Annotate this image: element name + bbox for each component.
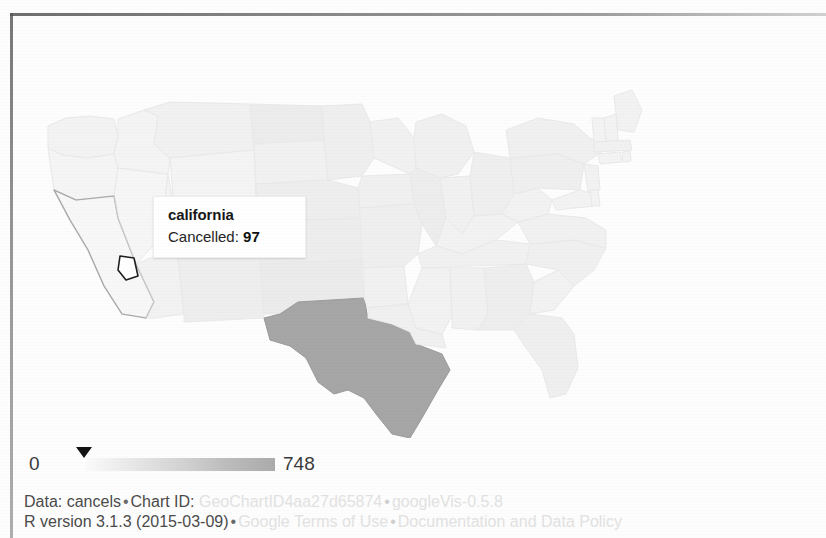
state-delaware[interactable] (590, 190, 600, 206)
legend-value-marker (76, 447, 92, 458)
footer-line-2: R version 3.1.3 (2015-03-09)•Google Term… (24, 512, 824, 532)
legend-min-label: 0 (29, 454, 40, 474)
state-missouri[interactable] (360, 204, 422, 268)
footer-library-link[interactable]: googleVis-0.5.8 (392, 493, 503, 510)
footer-separator-4: • (388, 513, 398, 530)
footer-line-1: Data: cancels•Chart ID: GeoChartID4aa27d… (24, 492, 824, 512)
footer-documentation-link[interactable]: Documentation and Data Policy (398, 513, 622, 530)
footer-data-label: Data: cancels (24, 493, 121, 510)
legend-gradient-bar[interactable] (85, 458, 275, 471)
us-states-map[interactable] (18, 18, 818, 438)
state-wisconsin[interactable] (370, 118, 416, 174)
state-rhode-island[interactable] (622, 151, 631, 162)
tooltip-region-name: california (168, 206, 293, 224)
state-alabama[interactable] (450, 268, 488, 330)
footer-separator-1: • (121, 493, 131, 510)
chart-footer: Data: cancels•Chart ID: GeoChartID4aa27d… (24, 492, 824, 532)
footer-chart-id-value: GeoChartID4aa27d65874 (199, 493, 382, 510)
page-edge-top (10, 13, 826, 16)
footer-r-version: R version 3.1.3 (2015-03-09) (24, 513, 229, 530)
legend-max-label: 748 (283, 454, 315, 474)
geochart-page: california Cancelled: 97 0 748 Data: can… (0, 0, 826, 538)
state-massachusetts[interactable] (594, 140, 632, 152)
state-new-mexico[interactable] (178, 254, 264, 322)
tooltip-metric-label: Cancelled: (168, 228, 239, 245)
state-mississippi[interactable] (408, 268, 452, 334)
state-maryland[interactable] (552, 190, 596, 210)
state-north-dakota[interactable] (250, 104, 324, 144)
footer-separator-2: • (382, 493, 392, 510)
state-michigan[interactable] (414, 114, 474, 178)
state-new-jersey[interactable] (584, 164, 600, 192)
color-scale-legend[interactable]: 0 748 (18, 445, 348, 481)
state-south-dakota[interactable] (254, 140, 328, 184)
footer-google-terms-link[interactable]: Google Terms of Use (238, 513, 388, 530)
state-maine[interactable] (614, 90, 642, 132)
state-connecticut[interactable] (598, 152, 622, 164)
tooltip-metric-row: Cancelled: 97 (168, 227, 293, 247)
footer-separator-3: • (229, 513, 239, 530)
state-florida[interactable] (514, 314, 578, 398)
footer-chart-id-label: Chart ID: (131, 493, 195, 510)
state-washington[interactable] (48, 116, 118, 158)
state-iowa[interactable] (358, 174, 414, 208)
map-tooltip: california Cancelled: 97 (153, 196, 306, 258)
state-vermont[interactable] (592, 118, 606, 142)
tooltip-metric-value: 97 (243, 228, 260, 245)
state-montana[interactable] (144, 102, 254, 158)
state-arkansas[interactable] (364, 266, 408, 308)
page-edge-left (10, 13, 13, 538)
state-minnesota[interactable] (322, 104, 374, 180)
geochart-canvas[interactable]: california Cancelled: 97 (18, 18, 818, 438)
